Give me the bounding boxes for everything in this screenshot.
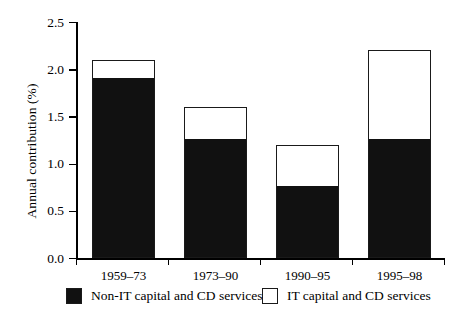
x-category-label-1959-73: 1959–73: [101, 268, 147, 284]
legend-label-it: IT capital and CD services: [287, 288, 431, 304]
y-tick-1.0: 1.0: [69, 164, 76, 165]
bar-segment-non-it-1990-95: [277, 186, 338, 257]
bar-1990-95: [276, 145, 339, 258]
y-tick-2.5: 2.5: [69, 22, 76, 23]
x-category-label-1973-90: 1973–90: [193, 268, 239, 284]
legend-item-non-it: Non-IT capital and CD services: [66, 288, 262, 304]
y-tick-label-1.0: 1.0: [47, 156, 64, 172]
y-tick-label-2.5: 2.5: [47, 14, 64, 30]
bar-1995-98: [368, 50, 431, 258]
y-tick-0.0: 0.0: [69, 258, 76, 259]
y-tick-label-2.0: 2.0: [47, 62, 64, 78]
y-tick-label-1.5: 1.5: [47, 109, 64, 125]
x-category-label-1995-98: 1995–98: [377, 268, 423, 284]
y-axis-line: [76, 22, 78, 259]
y-tick-label-0.5: 0.5: [47, 203, 64, 219]
bar-1959-73: [92, 60, 155, 258]
legend-label-non-it: Non-IT capital and CD services: [91, 288, 262, 304]
bar-segment-non-it-1995-98: [369, 139, 430, 257]
legend-swatch-non-it-icon: [66, 288, 82, 304]
x-tick-4: [444, 258, 445, 265]
x-tick-1: [168, 258, 169, 265]
y-tick-label-0.0: 0.0: [47, 250, 64, 266]
y-tick-2.0: 2.0: [69, 69, 76, 70]
y-tick-1.5: 1.5: [69, 116, 76, 117]
legend-swatch-it-icon: [262, 288, 278, 304]
x-tick-2: [260, 258, 261, 265]
bar-segment-non-it-1973-90: [185, 139, 246, 257]
x-tick-0: [76, 258, 77, 265]
chart-legend: Non-IT capital and CD services IT capita…: [0, 288, 470, 318]
x-category-label-1990-95: 1990–95: [285, 268, 331, 284]
stacked-bar-chart-figure: Annual contribution (%) 2.5 2.0 1.5 1.0 …: [0, 0, 470, 323]
x-tick-3: [352, 258, 353, 265]
y-axis-title: Annual contribution (%): [24, 41, 40, 261]
y-tick-0.5: 0.5: [69, 211, 76, 212]
legend-item-it: IT capital and CD services: [262, 288, 431, 304]
plot-area: 2.5 2.0 1.5 1.0 0.5 0.0: [76, 16, 445, 259]
bar-1973-90: [184, 107, 247, 258]
bar-segment-non-it-1959-73: [93, 78, 154, 257]
